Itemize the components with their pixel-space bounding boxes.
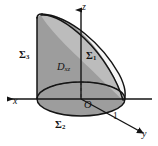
sigma1-symbol: Σ — [86, 50, 93, 61]
sigma1-subscript: 1 — [93, 54, 96, 61]
y-axis-tick-label-1: 1 — [113, 112, 118, 122]
label-sigma-1: Σ1 — [86, 51, 96, 62]
sigma3-symbol: Σ — [19, 49, 26, 60]
axis-label-x: x — [13, 96, 17, 106]
axis-label-z: z — [82, 2, 86, 12]
label-region-dxz: Dxz — [57, 62, 70, 73]
figure-canvas: Σ3 Σ1 Σ2 Dxz z x y O 1 — [0, 0, 158, 146]
label-sigma-2: Σ2 — [55, 120, 65, 131]
sigma2-symbol: Σ — [55, 119, 62, 130]
origin-label: O — [84, 100, 92, 111]
region-subscript: xz — [65, 65, 71, 72]
axis-label-y: y — [142, 129, 146, 139]
solid-geometry-illustration — [0, 0, 158, 146]
region-symbol: D — [57, 61, 65, 72]
sigma3-subscript: 3 — [26, 53, 29, 60]
label-sigma-3: Σ3 — [19, 50, 29, 61]
sigma2-subscript: 2 — [62, 123, 65, 130]
